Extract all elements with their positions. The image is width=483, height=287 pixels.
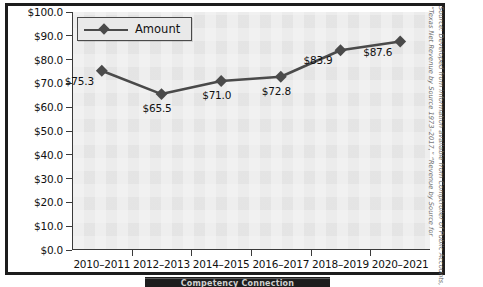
- y-axis-tick-label: $70.0: [34, 77, 63, 89]
- y-axis-tick-label: $30.0: [34, 173, 63, 185]
- y-axis-tick: $0.0: [5, 243, 72, 257]
- chart-screenshot: $100.0$90.0$80.0$70.0$60.0$50.0$40.0$30.…: [0, 0, 483, 287]
- data-point-marker: [275, 71, 287, 83]
- y-axis-tick-label: $40.0: [34, 149, 63, 161]
- y-axis-tick-label: $10.0: [34, 220, 63, 232]
- data-point-label: $71.0: [202, 89, 231, 101]
- y-axis-tick: $70.0: [5, 76, 72, 90]
- x-axis-tick-mark: [132, 250, 133, 256]
- data-point-label: $87.6: [363, 46, 392, 58]
- x-axis-tick-mark: [251, 250, 252, 256]
- data-point-label: $75.3: [65, 75, 94, 87]
- y-axis-tick-label: $0.0: [40, 244, 63, 256]
- chart-legend: Amount: [77, 17, 192, 41]
- y-axis-tick-label: $100.0: [27, 6, 63, 18]
- data-point-label: $72.8: [262, 85, 291, 97]
- x-axis-tick-label: 2014–2015: [191, 258, 251, 270]
- y-axis-tick-label: $20.0: [34, 196, 63, 208]
- y-axis-tick: $100.0: [5, 5, 72, 19]
- y-axis: $100.0$90.0$80.0$70.0$60.0$50.0$40.0$30.…: [5, 3, 72, 259]
- data-point-marker: [96, 65, 108, 77]
- legend-item-label: Amount: [135, 22, 180, 36]
- series-markers-amount: [96, 36, 406, 100]
- data-point-marker: [335, 44, 347, 56]
- y-axis-tick: $10.0: [5, 219, 72, 233]
- footer-band-title: Competency Connection: [145, 279, 330, 287]
- y-axis-tick: $80.0: [5, 53, 72, 67]
- data-point-marker: [156, 88, 168, 100]
- line-chart-figure: $100.0$90.0$80.0$70.0$60.0$50.0$40.0$30.…: [5, 3, 445, 275]
- x-axis-tick-mark: [311, 250, 312, 256]
- y-axis-tick: $90.0: [5, 29, 72, 43]
- y-axis-tick-label: $60.0: [34, 101, 63, 113]
- data-point-marker: [394, 36, 406, 48]
- source-note: Source: Developed from information avail…: [416, 0, 447, 287]
- y-axis-tick: $40.0: [5, 148, 72, 162]
- y-axis-tick: $50.0: [5, 124, 72, 138]
- x-axis-tick-label: 2010–2011: [72, 258, 132, 270]
- y-axis-tick-label: $50.0: [34, 125, 63, 137]
- x-axis-tick-mark: [191, 250, 192, 256]
- x-axis-tick-label: 2018–2019: [311, 258, 371, 270]
- series-line-amount: [102, 42, 400, 95]
- y-axis-tick: $30.0: [5, 172, 72, 186]
- y-axis-tick: $20.0: [5, 195, 72, 209]
- x-axis-tick-mark: [370, 250, 371, 256]
- footer-band: Competency Connection: [145, 277, 330, 287]
- data-point-marker: [215, 75, 227, 87]
- data-point-label: $65.5: [143, 102, 172, 114]
- y-axis-tick: $60.0: [5, 100, 72, 114]
- data-point-label: $83.9: [304, 54, 333, 66]
- legend-line-diamond-icon: [84, 24, 128, 35]
- x-axis-tick-label: 2012–2013: [132, 258, 192, 270]
- x-axis-tick-label: 2016–2017: [251, 258, 311, 270]
- x-axis: 2010–20112012–20132014–20152016–20172018…: [72, 250, 430, 276]
- y-axis-tick-label: $80.0: [34, 54, 63, 66]
- y-axis-tick-label: $90.0: [34, 30, 63, 42]
